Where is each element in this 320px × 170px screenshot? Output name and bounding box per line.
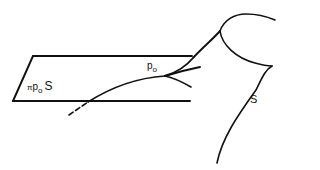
- point-label: po: [147, 61, 157, 74]
- surface: [217, 14, 275, 163]
- surface-right-edge: [217, 66, 272, 163]
- surface-name: S: [250, 93, 257, 105]
- surface-inner-fold: [220, 31, 272, 66]
- point-label-subscript: o: [153, 65, 157, 74]
- tangent-plane-label: πpoS: [27, 80, 53, 95]
- cusp: [165, 31, 220, 87]
- surface-top-loop: [220, 14, 275, 31]
- point-subscript: o: [38, 86, 42, 95]
- curve-through-point: [69, 76, 165, 115]
- surface-symbol: S: [45, 79, 53, 93]
- surface-label: S: [250, 94, 257, 105]
- hidden-curve-segment: [69, 102, 88, 115]
- visible-curve-segment: [88, 76, 165, 102]
- cusp-lower-branch: [165, 76, 191, 87]
